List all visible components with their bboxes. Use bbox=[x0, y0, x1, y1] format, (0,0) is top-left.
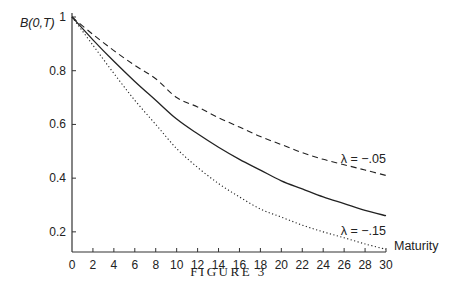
series-line-lambda-005 bbox=[72, 17, 386, 175]
y-tick-label: 0.6 bbox=[49, 117, 66, 131]
series-group bbox=[72, 17, 386, 249]
chart: 024681012141618202224262830 0.20.40.60.8… bbox=[0, 0, 457, 299]
axes bbox=[72, 13, 386, 252]
series-line-lambda-015 bbox=[72, 17, 386, 249]
y-tick-label: 0.2 bbox=[49, 225, 66, 239]
annotation-lambda-005: λ = −.05 bbox=[341, 152, 386, 166]
x-axis-title: Maturity bbox=[394, 239, 439, 253]
figure-caption: FIGURE 3 bbox=[0, 264, 457, 280]
y-tick-label: 0.8 bbox=[49, 64, 66, 78]
y-tick-label: 0.4 bbox=[49, 171, 66, 185]
series-line-base bbox=[72, 17, 386, 216]
y-tick-label: 1 bbox=[59, 10, 66, 24]
y-axis-title: B(0,T) bbox=[20, 16, 55, 30]
annotation-lambda-015: λ = −.15 bbox=[341, 224, 386, 238]
